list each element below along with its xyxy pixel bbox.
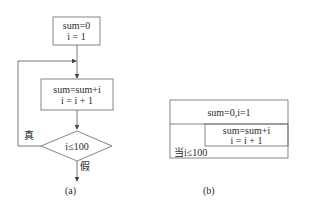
- body-text-1: sum=sum+i: [41, 84, 113, 95]
- ns-init-text: sum=0,i=1: [170, 107, 288, 118]
- init-text-1: sum=0: [53, 20, 100, 31]
- body-text-2: i = i + 1: [41, 95, 113, 106]
- ns-loop-condition: 当i≤100: [174, 147, 207, 158]
- caption-a: (a): [65, 185, 76, 196]
- caption-b: (b): [203, 185, 215, 196]
- ns-body-text-2: i = i + 1: [205, 135, 288, 146]
- init-text-2: i = 1: [53, 31, 100, 42]
- false-label: 假: [80, 161, 90, 172]
- true-label: 真: [24, 130, 34, 141]
- condition-text: i≤100: [52, 141, 102, 152]
